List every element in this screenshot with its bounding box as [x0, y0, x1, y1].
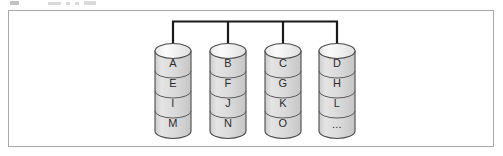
segment-label: C [279, 57, 287, 69]
segment-label: N [224, 117, 232, 129]
segment-label: D [333, 57, 341, 69]
database-cylinder-1[interactable]: A E I M [155, 44, 191, 139]
segment-label-ellipsis: ... [332, 118, 342, 130]
database-cylinder-3[interactable]: C G K O [265, 44, 301, 139]
segment-label: B [224, 57, 232, 69]
segment-label: I [171, 97, 174, 109]
cylinders-diagram: A E I M B F J N C G K O [0, 0, 503, 156]
figure-root: A E I M B F J N C G K O [0, 0, 503, 156]
segment-label: K [279, 97, 287, 109]
database-cylinder-4[interactable]: D H L ... [319, 44, 355, 139]
segment-label: J [225, 97, 231, 109]
database-cylinder-2[interactable]: B F J N [210, 44, 246, 139]
segment-label: A [169, 57, 177, 69]
connection-bus [172, 21, 338, 48]
segment-label: G [279, 77, 288, 89]
segment-label: E [169, 77, 177, 89]
segment-label: O [279, 117, 288, 129]
segment-label: F [225, 77, 232, 89]
segment-label: H [333, 77, 341, 89]
segment-label: M [168, 117, 177, 129]
segment-label: L [334, 97, 340, 109]
